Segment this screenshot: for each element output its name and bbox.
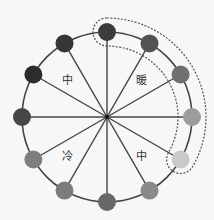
- color-swatch-30: [141, 34, 159, 52]
- label-bottom-right: 中: [136, 150, 147, 163]
- label-top-left: 中: [62, 74, 73, 87]
- color-swatch-210: [56, 182, 74, 200]
- wheel-center-hub: [105, 115, 109, 119]
- color-swatch-150: [141, 182, 159, 200]
- color-swatch-90: [183, 108, 201, 126]
- color-swatch-270: [13, 108, 31, 126]
- color-swatch-300: [24, 66, 42, 84]
- color-swatch-0: [98, 23, 116, 41]
- color-swatch-60: [172, 66, 190, 84]
- label-top-right: 暖: [136, 74, 147, 87]
- color-swatch-330: [56, 34, 74, 52]
- color-wheel-diagram: 中暖冷中: [0, 0, 214, 220]
- color-swatch-240: [24, 151, 42, 169]
- color-swatch-180: [98, 193, 116, 211]
- color-swatch-120: [172, 151, 190, 169]
- label-bottom-left: 冷: [62, 150, 73, 163]
